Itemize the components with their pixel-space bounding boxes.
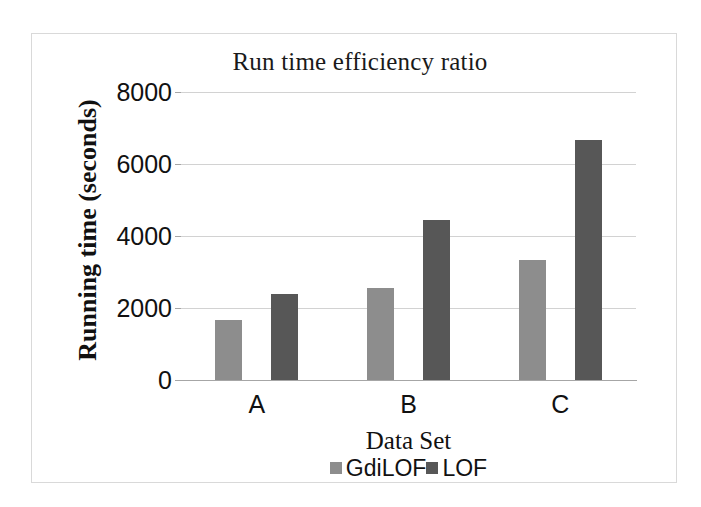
y-tick-label: 2000	[88, 296, 172, 321]
y-tick-label: 6000	[88, 152, 172, 177]
bar-gdilof-a	[215, 320, 242, 380]
x-tick-label-b: B	[369, 392, 449, 417]
y-tick-label: 8000	[88, 80, 172, 105]
chart-title: Run time efficiency ratio	[150, 48, 570, 76]
legend-label: LOF	[442, 457, 487, 480]
y-axis-tick-labels: 02000400060008000	[88, 92, 172, 380]
x-axis-title: Data Set	[181, 427, 636, 455]
y-tick-mark	[175, 236, 181, 237]
bar-gdilof-b	[367, 288, 394, 380]
plot-area	[181, 92, 636, 380]
y-tick-label: 4000	[88, 224, 172, 249]
y-tick-mark	[175, 380, 181, 381]
y-tick-mark	[175, 308, 181, 309]
gridline	[181, 164, 636, 165]
legend-swatch-icon	[426, 462, 438, 474]
bar-lof-c	[575, 140, 602, 380]
legend-item-lof[interactable]: LOF	[426, 457, 487, 480]
legend-label: GdiLOF	[346, 457, 427, 480]
legend-item-gdilof[interactable]: GdiLOF	[330, 457, 427, 480]
legend-swatch-icon	[330, 462, 342, 474]
y-tick-mark	[175, 164, 181, 165]
x-axis-baseline	[178, 380, 637, 381]
y-tick-label: 0	[88, 368, 172, 393]
gridline	[181, 236, 636, 237]
chart-legend: GdiLOFLOF	[181, 455, 636, 481]
x-tick-label-a: A	[217, 392, 297, 417]
gridline	[181, 92, 636, 93]
x-tick-label-c: C	[520, 392, 600, 417]
chart-figure: Run time efficiency ratio Running time (…	[0, 0, 701, 507]
x-axis-tick-labels: ABC	[181, 392, 636, 426]
bar-lof-b	[423, 220, 450, 380]
bar-lof-a	[271, 294, 298, 380]
y-tick-mark	[175, 92, 181, 93]
gridline	[181, 308, 636, 309]
bar-gdilof-c	[519, 260, 546, 380]
